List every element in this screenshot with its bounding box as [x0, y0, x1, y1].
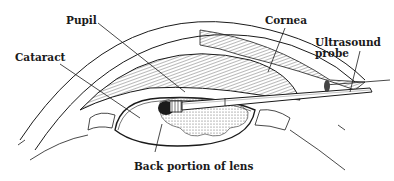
- label-pupil: Pupil: [66, 15, 97, 26]
- label-cataract: Cataract: [15, 52, 65, 63]
- diagram-canvas: Pupil Cataract Cornea Ultrasound probe B…: [0, 0, 394, 181]
- label-ultrasound-probe: Ultrasound probe: [315, 37, 381, 59]
- eye-cross-section-illustration: [0, 0, 394, 181]
- label-back-portion-of-lens: Back portion of lens: [134, 161, 253, 172]
- label-cornea: Cornea: [265, 15, 307, 26]
